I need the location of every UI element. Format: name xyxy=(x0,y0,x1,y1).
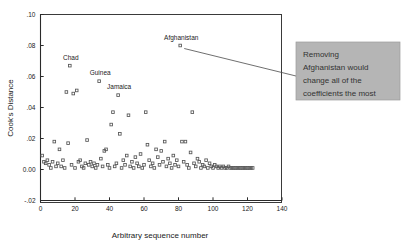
point-label-jamaica: Jamaica xyxy=(107,83,132,90)
y-tick-label: .02 xyxy=(26,135,35,142)
callout-line: coefficients the most xyxy=(303,89,377,98)
y-tick-label: .04 xyxy=(26,104,35,111)
y-axis-title: Cook's Distance xyxy=(6,79,15,137)
callout-line: Afghanistan would xyxy=(303,63,368,72)
y-tick-label: .06 xyxy=(26,73,35,80)
chart-canvas: 020406080100120140 -.020.00.02.04.06.08.… xyxy=(0,0,405,248)
x-tick-label: 0 xyxy=(39,205,43,212)
cooks-distance-scatter-figure: 020406080100120140 -.020.00.02.04.06.08.… xyxy=(0,0,405,248)
x-tick-label: 120 xyxy=(242,205,253,212)
x-axis-title: Arbitrary sequence number xyxy=(112,231,209,240)
x-tick-label: 140 xyxy=(277,205,288,212)
x-tick-label: 20 xyxy=(71,205,79,212)
x-tick-label: 40 xyxy=(106,205,114,212)
x-tick-label: 100 xyxy=(208,205,219,212)
callout-line: Removing xyxy=(303,50,339,59)
x-tick-label: 60 xyxy=(140,205,148,212)
callout-line: change all of the xyxy=(303,76,362,85)
figure-background xyxy=(0,0,405,248)
point-label-guinea: Guinea xyxy=(90,69,111,76)
point-label-chad: Chad xyxy=(63,54,79,61)
point-label-afghanistan: Afghanistan xyxy=(164,34,199,42)
y-tick-label: 0.00 xyxy=(23,166,36,173)
y-tick-label: .10 xyxy=(26,11,35,18)
x-tick-label: 80 xyxy=(175,205,183,212)
y-tick-label: .08 xyxy=(26,42,35,49)
y-tick-label: -.02 xyxy=(24,197,36,204)
